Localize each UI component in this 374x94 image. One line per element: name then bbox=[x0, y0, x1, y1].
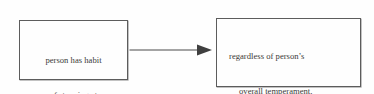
diagram-canvas: person has habit of stopping at stop sig… bbox=[0, 0, 374, 94]
node-effect-line-1: regardless of person’s bbox=[229, 51, 354, 63]
arrow-icon bbox=[129, 42, 214, 58]
arrow-cause-to-effect bbox=[129, 42, 214, 58]
node-cause-text: person has habit of stopping at stop sig… bbox=[20, 32, 127, 94]
arrow-head bbox=[197, 45, 212, 56]
node-cause-line-1: person has habit bbox=[20, 55, 127, 67]
node-cause-line-2: of stopping at bbox=[20, 90, 127, 94]
node-effect-line-2: overall temperament, bbox=[239, 86, 354, 94]
node-effect-text: regardless of person’s overall temperame… bbox=[229, 28, 354, 94]
flowchart-node-cause[interactable]: person has habit of stopping at stop sig… bbox=[19, 20, 128, 80]
flowchart-node-effect[interactable]: regardless of person’s overall temperame… bbox=[216, 18, 361, 87]
